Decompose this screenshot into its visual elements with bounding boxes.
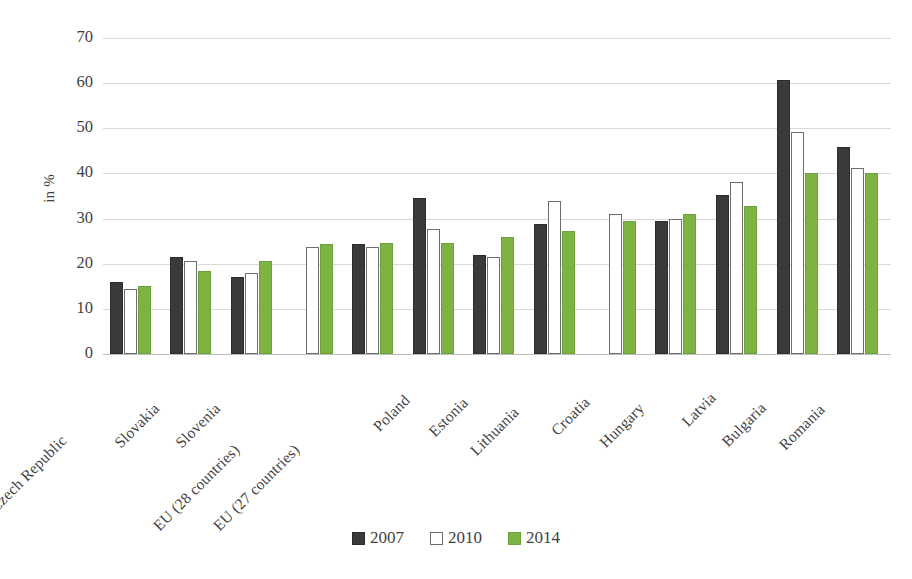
bar bbox=[609, 214, 622, 354]
chart-legend: 200720102014 bbox=[0, 528, 912, 548]
bar bbox=[716, 195, 729, 354]
bar bbox=[837, 147, 850, 354]
x-axis-category-label: Croatia bbox=[548, 393, 594, 439]
y-axis-tick-label: 60 bbox=[47, 72, 93, 92]
bar bbox=[791, 132, 804, 354]
x-axis-category-label: Romania bbox=[776, 401, 829, 454]
legend-label: 2014 bbox=[526, 528, 560, 548]
x-axis-category-label: Poland bbox=[370, 391, 414, 435]
bar-group bbox=[103, 38, 164, 354]
x-axis-category-label: Czech Republic bbox=[0, 432, 70, 516]
bar bbox=[184, 261, 197, 354]
bar bbox=[473, 255, 486, 354]
bar bbox=[777, 80, 790, 354]
bar-group bbox=[285, 38, 346, 354]
bar-group bbox=[345, 38, 406, 354]
bar bbox=[124, 289, 137, 354]
bar-group bbox=[467, 38, 528, 354]
y-axis-tick-label: 70 bbox=[47, 27, 93, 47]
bar bbox=[623, 221, 636, 354]
bar-group bbox=[224, 38, 285, 354]
bar bbox=[805, 173, 818, 354]
legend-item[interactable]: 2014 bbox=[508, 528, 560, 548]
x-axis-category-label: Latvia bbox=[678, 389, 720, 431]
x-axis-category-label: Slovenia bbox=[172, 399, 224, 451]
bar bbox=[380, 243, 393, 354]
bar-group bbox=[527, 38, 588, 354]
bar-group bbox=[709, 38, 770, 354]
legend-swatch-icon bbox=[430, 532, 443, 545]
bar bbox=[487, 257, 500, 354]
bar-chart: in % 010203040506070 Czech RepublicSlova… bbox=[0, 0, 912, 579]
legend-item[interactable]: 2007 bbox=[352, 528, 404, 548]
bar bbox=[427, 229, 440, 354]
bar bbox=[413, 198, 426, 354]
bar bbox=[865, 173, 878, 354]
x-axis-category-label: Bulgaria bbox=[718, 399, 770, 451]
y-axis-tick-label: 0 bbox=[47, 343, 93, 363]
legend-swatch-icon bbox=[508, 532, 521, 545]
plot-area bbox=[103, 38, 891, 354]
bar bbox=[320, 244, 333, 354]
bar bbox=[683, 214, 696, 354]
bar bbox=[851, 168, 864, 354]
bar-group bbox=[164, 38, 225, 354]
bar bbox=[170, 257, 183, 354]
bar bbox=[744, 206, 757, 354]
bar bbox=[366, 247, 379, 354]
bar bbox=[259, 261, 272, 354]
bar-group bbox=[770, 38, 831, 354]
bar bbox=[669, 219, 682, 354]
bar bbox=[306, 247, 319, 354]
x-axis-category-label: Estonia bbox=[425, 394, 472, 441]
bar bbox=[501, 237, 514, 354]
bar-group bbox=[830, 38, 891, 354]
bar bbox=[352, 244, 365, 354]
y-axis-tick-label: 10 bbox=[47, 298, 93, 318]
bar bbox=[138, 286, 151, 354]
bar bbox=[655, 221, 668, 354]
y-axis-tick-label: 30 bbox=[47, 208, 93, 228]
bar-group bbox=[588, 38, 649, 354]
bar bbox=[110, 282, 123, 354]
bar bbox=[548, 201, 561, 354]
bar-group bbox=[406, 38, 467, 354]
y-axis-tick-label: 50 bbox=[47, 117, 93, 137]
legend-label: 2007 bbox=[370, 528, 404, 548]
y-axis-tick-label: 20 bbox=[47, 253, 93, 273]
legend-label: 2010 bbox=[448, 528, 482, 548]
x-axis-category-label: Slovakia bbox=[111, 399, 163, 451]
bar bbox=[730, 182, 743, 354]
y-axis-tick-label: 40 bbox=[47, 162, 93, 182]
bar-group bbox=[649, 38, 710, 354]
x-axis-category-label: Lithuania bbox=[467, 403, 523, 459]
bar bbox=[441, 243, 454, 355]
bar bbox=[198, 271, 211, 355]
bar bbox=[534, 224, 547, 354]
bar bbox=[231, 277, 244, 354]
bar bbox=[245, 273, 258, 354]
legend-swatch-icon bbox=[352, 532, 365, 545]
gridline bbox=[103, 354, 891, 355]
legend-item[interactable]: 2010 bbox=[430, 528, 482, 548]
x-axis-category-label: Hungary bbox=[596, 399, 648, 451]
bar bbox=[562, 231, 575, 354]
